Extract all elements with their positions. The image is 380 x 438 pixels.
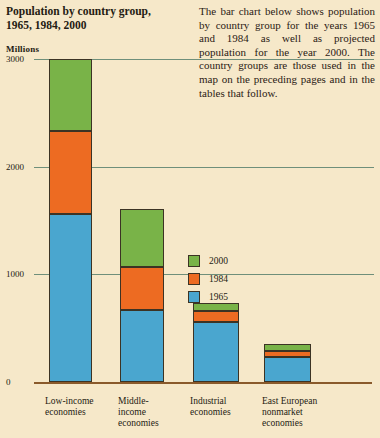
legend-label: 1965 — [209, 292, 228, 302]
legend-label: 2000 — [209, 256, 228, 266]
x-axis-label-line: Middle- — [118, 396, 159, 407]
x-axis-label-4: East Europeannonmarketeconomies — [262, 396, 317, 429]
x-axis-label-line: East European — [262, 396, 317, 407]
x-axis-label-line: economies — [118, 418, 159, 429]
x-axis-label-line: Industrial — [190, 396, 231, 407]
bar-segment-1984 — [49, 131, 92, 214]
bar-segment-1965 — [120, 310, 164, 382]
legend-swatch-icon — [188, 255, 200, 267]
x-axis-label-line: Low-income — [45, 396, 94, 407]
bar-segment-1965 — [193, 322, 239, 382]
x-axis-label-line: economies — [45, 407, 94, 418]
chart-legend: 200019841965 — [188, 252, 228, 306]
bar-segment-2000 — [264, 344, 311, 351]
bar-chart: Millions 0100020003000 200019841965 — [0, 44, 380, 394]
bar-segment-2000 — [49, 59, 92, 131]
legend-item-2000: 2000 — [188, 252, 228, 270]
x-axis-label-line: income — [118, 407, 159, 418]
legend-swatch-icon — [188, 273, 200, 285]
x-axis-label-3: Industrialeconomies — [190, 396, 231, 418]
figure-page: Population by country group, 1965, 1984,… — [0, 0, 380, 438]
bar-segment-1984 — [193, 311, 239, 322]
title-line-2: 1965, 1984, 2000 — [6, 18, 186, 32]
title-line-1: Population by country group, — [6, 4, 186, 18]
page-title: Population by country group, 1965, 1984,… — [6, 4, 186, 32]
legend-item-1984: 1984 — [188, 270, 228, 288]
x-axis-label-2: Middle-incomeeconomies — [118, 396, 159, 429]
bar-segment-1965 — [264, 357, 311, 382]
bar-segment-2000 — [120, 209, 164, 267]
bar-segment-1984 — [264, 351, 311, 357]
plot-area — [0, 44, 380, 394]
x-axis-label-line: economies — [190, 407, 231, 418]
legend-label: 1984 — [209, 274, 228, 284]
bar-3 — [193, 303, 239, 382]
legend-swatch-icon — [188, 291, 200, 303]
bar-segment-1984 — [120, 267, 164, 310]
x-axis-label-line: economies — [262, 418, 317, 429]
bar-2 — [120, 209, 164, 382]
x-axis-baseline — [34, 382, 334, 384]
x-axis-labels: Low-incomeeconomiesMiddle-incomeeconomie… — [0, 396, 380, 438]
x-axis-label-1: Low-incomeeconomies — [45, 396, 94, 418]
bar-4 — [264, 344, 311, 382]
bar-segment-1965 — [49, 214, 92, 382]
legend-item-1965: 1965 — [188, 288, 228, 306]
x-axis-label-line: nonmarket — [262, 407, 317, 418]
bar-1 — [49, 59, 92, 382]
